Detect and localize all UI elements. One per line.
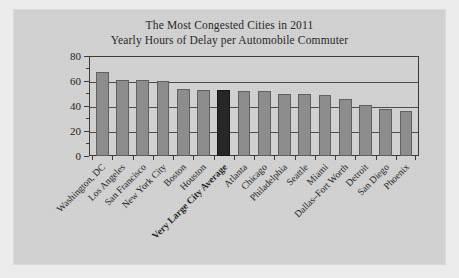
- x-tick: [214, 156, 234, 160]
- y-axis-label-80: 80: [70, 51, 81, 62]
- bar-atlanta[interactable]: [238, 91, 251, 156]
- x-tick: [335, 156, 355, 160]
- bars-layer: [89, 56, 419, 156]
- bar-los-angeles[interactable]: [116, 80, 129, 156]
- x-axis-labels: Washington, DCLos AngelesSan FranciscoNe…: [89, 161, 419, 256]
- x-tick: [133, 156, 153, 160]
- x-tick: [254, 156, 274, 160]
- bar-slot: [153, 56, 173, 156]
- bar-slot: [376, 56, 396, 156]
- bar-detroit[interactable]: [359, 105, 372, 156]
- bar-slot: [335, 56, 355, 156]
- bar-new-york-city[interactable]: [157, 81, 170, 156]
- scanned-page: The Most Congested Cities in 2011 Yearly…: [0, 0, 459, 278]
- chart-title-line-2: Yearly Hours of Delay per Automobile Com…: [13, 33, 446, 48]
- chart-title-block: The Most Congested Cities in 2011 Yearly…: [13, 18, 446, 48]
- bar-slot: [274, 56, 294, 156]
- bar-slot: [112, 56, 132, 156]
- bar-washington-dc[interactable]: [96, 72, 109, 156]
- bar-san-francisco[interactable]: [136, 80, 149, 156]
- figure-panel: The Most Congested Cities in 2011 Yearly…: [13, 9, 446, 265]
- x-axis-ticks: [89, 156, 419, 160]
- bar-miami[interactable]: [319, 95, 332, 156]
- bar-seattle[interactable]: [298, 94, 311, 157]
- bar-boston[interactable]: [177, 89, 190, 157]
- bar-san-diego[interactable]: [379, 109, 392, 157]
- bar-slot: [92, 56, 112, 156]
- bar-philadelphia[interactable]: [278, 94, 291, 157]
- y-axis-label-60: 60: [70, 76, 81, 87]
- y-axis-label-20: 20: [70, 126, 81, 137]
- x-tick: [315, 156, 335, 160]
- x-tick: [274, 156, 294, 160]
- bar-slot: [396, 56, 416, 156]
- x-tick: [153, 156, 173, 160]
- bar-slot: [315, 56, 335, 156]
- bar-slot: [173, 56, 193, 156]
- x-tick: [173, 156, 193, 160]
- bar-houston[interactable]: [197, 90, 210, 156]
- x-tick: [193, 156, 213, 160]
- x-tick: [295, 156, 315, 160]
- y-axis-label-0: 0: [76, 151, 82, 162]
- bar-phoenix[interactable]: [400, 111, 413, 156]
- bar-slot: [133, 56, 153, 156]
- bar-slot: [355, 56, 375, 156]
- x-tick: [92, 156, 112, 160]
- bar-chicago[interactable]: [258, 91, 271, 156]
- chart-title-line-1: The Most Congested Cities in 2011: [13, 18, 446, 33]
- x-tick: [234, 156, 254, 160]
- x-tick: [396, 156, 416, 160]
- x-tick: [355, 156, 375, 160]
- bar-slot: [214, 56, 234, 156]
- y-axis-label-40: 40: [70, 101, 81, 112]
- x-tick: [376, 156, 396, 160]
- bar-slot: [234, 56, 254, 156]
- bar-slot: [295, 56, 315, 156]
- x-tick: [112, 156, 132, 160]
- bar-slot: [254, 56, 274, 156]
- bar-very-large-city-average[interactable]: [217, 90, 230, 156]
- bar-slot: [193, 56, 213, 156]
- bar-dallas-fort-worth[interactable]: [339, 99, 352, 157]
- x-label-slot: Phoenix: [396, 161, 416, 256]
